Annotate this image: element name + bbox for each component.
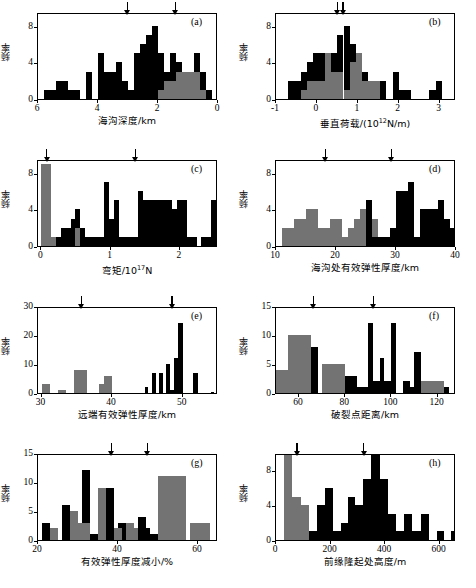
xtick-mark-h-3 — [439, 541, 440, 544]
bar-e-gray-2 — [74, 370, 87, 393]
bars-layer-f — [276, 308, 454, 393]
xtick-label-c-2: 2 — [159, 251, 199, 261]
xtick-label-b-1: 0 — [296, 104, 336, 114]
bar-h-black-13 — [412, 531, 420, 540]
bar-h-black-9 — [380, 479, 388, 540]
xtick-label-e-2: 50 — [162, 398, 202, 408]
bar-h-black-5 — [348, 497, 355, 541]
panel-tag-h: (h) — [429, 458, 441, 468]
ytick-mark-f-3 — [272, 307, 275, 308]
ytick-label-h-1: 4 — [251, 501, 271, 511]
xtick-mark-h-0 — [275, 541, 276, 544]
ytick-mark-f-0 — [272, 394, 275, 395]
bar-c-gray-1 — [46, 164, 51, 246]
bar-e-black-3 — [166, 364, 170, 393]
panel-f: 051015频率6080100120破裂点距离/km(f) — [238, 294, 476, 441]
xtick-mark-c-2 — [179, 247, 180, 250]
bar-f-gray-7 — [421, 381, 433, 393]
ytick-mark-d-2 — [272, 174, 275, 175]
xtick-label-d-0: 10 — [255, 251, 295, 261]
xtick-mark-f-2 — [390, 394, 391, 397]
ytick-mark-b-2 — [272, 27, 275, 28]
y-axis-label-a: 频率 — [1, 43, 10, 61]
ytick-label-f-1: 5 — [251, 360, 271, 370]
bar-g-black-7 — [142, 528, 150, 540]
ytick-label-f-3: 15 — [251, 302, 271, 312]
bar-f-gray-5 — [334, 364, 346, 393]
xtick-label-h-0: 0 — [255, 545, 295, 555]
bar-g-black-3 — [90, 534, 98, 540]
y-axis-label-f: 频率 — [239, 337, 248, 355]
bar-f-gray-4 — [322, 364, 334, 393]
figure-histogram-grid: 048频率6420海沟深度/km(a)048频率-10123垂直荷载/(1012… — [0, 0, 476, 588]
xtick-mark-a-1 — [97, 100, 98, 103]
xtick-label-c-1: 1 — [90, 251, 130, 261]
x-axis-label-g: 有效弹性厚度减小/% — [37, 557, 217, 567]
ytick-label-e-3: 30 — [13, 302, 33, 312]
panel-tag-g: (g) — [191, 458, 203, 468]
plot-frame-e — [37, 307, 217, 394]
ytick-label-c-2: 8 — [13, 169, 33, 179]
x-axis-label-d: 海沟处有效弹性厚度/km — [275, 263, 455, 273]
bar-c-black-34 — [211, 200, 216, 246]
bar-g-black-8 — [150, 534, 158, 540]
ytick-mark-h-1 — [272, 506, 275, 507]
bar-f-black-11 — [414, 352, 421, 393]
ytick-mark-a-2 — [34, 27, 37, 28]
panel-tag-d: (d) — [429, 164, 441, 174]
xtick-mark-h-1 — [330, 541, 331, 544]
ytick-mark-e-2 — [34, 336, 37, 337]
xtick-mark-g-2 — [197, 541, 198, 544]
bar-h-black-6 — [355, 505, 363, 540]
bar-b-black-20 — [436, 81, 442, 99]
bar-c-gray-2 — [51, 237, 56, 246]
bar-f-black-13 — [444, 387, 449, 393]
ytick-mark-g-1 — [34, 512, 37, 513]
y-axis-label-d: 频率 — [239, 190, 248, 208]
bar-a-gray-7 — [200, 90, 206, 99]
bar-g-gray-6 — [130, 528, 138, 540]
bar-g-gray-2 — [78, 523, 90, 540]
xtick-mark-d-3 — [455, 247, 456, 250]
ytick-label-e-2: 20 — [13, 331, 33, 341]
bar-e-black-6 — [178, 323, 182, 393]
bar-h-black-2 — [325, 488, 333, 540]
bars-layer-c — [38, 161, 216, 246]
bar-f-gray-2 — [299, 335, 311, 393]
xtick-mark-d-1 — [335, 247, 336, 250]
bar-f-gray-0 — [276, 370, 288, 393]
xtick-mark-b-4 — [439, 100, 440, 103]
panel-b: 048频率-10123垂直荷载/(1012N/m)(b) — [238, 0, 476, 147]
bar-f-black-8 — [391, 323, 396, 393]
xtick-mark-f-3 — [437, 394, 438, 397]
xtick-mark-a-2 — [157, 100, 158, 103]
xtick-label-a-0: 6 — [17, 104, 57, 114]
ytick-mark-c-0 — [34, 247, 37, 248]
ytick-mark-e-3 — [34, 307, 37, 308]
ytick-mark-a-1 — [34, 63, 37, 64]
ytick-label-h-2: 8 — [251, 466, 271, 476]
xtick-label-h-3: 600 — [419, 545, 459, 555]
y-axis-label-g: 频率 — [1, 484, 10, 502]
xtick-mark-e-2 — [182, 394, 183, 397]
xtick-mark-b-3 — [398, 100, 399, 103]
bar-e-black-7 — [193, 373, 197, 393]
xtick-mark-g-0 — [37, 541, 38, 544]
xtick-label-a-2: 2 — [137, 104, 177, 114]
xtick-mark-b-0 — [275, 100, 276, 103]
bar-g-gray-1 — [70, 511, 78, 540]
xtick-mark-c-1 — [110, 247, 111, 250]
bar-e-black-1 — [152, 373, 156, 393]
xtick-label-d-1: 20 — [315, 251, 355, 261]
ytick-label-g-2: 10 — [13, 478, 33, 488]
xtick-label-c-0: 0 — [20, 251, 60, 261]
bar-h-gray-0 — [284, 455, 292, 540]
ytick-mark-e-0 — [34, 394, 37, 395]
xtick-label-h-1: 200 — [310, 545, 350, 555]
bar-h-black-3 — [333, 531, 341, 540]
xtick-mark-d-0 — [275, 247, 276, 250]
bar-f-black-7 — [384, 381, 391, 393]
xtick-label-a-3: 0 — [197, 104, 237, 114]
bar-g-gray-7 — [158, 476, 166, 540]
xtick-label-f-0: 60 — [278, 398, 318, 408]
